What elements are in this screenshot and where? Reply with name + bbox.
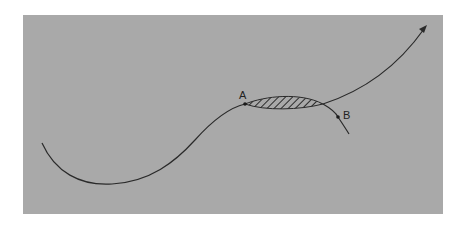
point-a-marker <box>243 102 247 106</box>
main-curve-upper <box>323 29 424 104</box>
arrowhead-icon <box>419 25 427 33</box>
point-b-label: B <box>343 110 350 121</box>
diagram-canvas: A B <box>0 0 466 225</box>
point-a-label: A <box>239 90 246 101</box>
point-b-marker <box>336 115 340 119</box>
main-curve-lower <box>42 104 245 184</box>
hatched-region <box>245 96 323 108</box>
diagram-svg <box>0 0 466 225</box>
